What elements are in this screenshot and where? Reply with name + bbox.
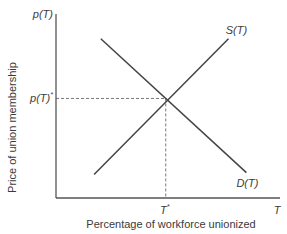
supply-curve: [94, 39, 228, 175]
equilibrium-price-label: p(T)*: [29, 91, 53, 104]
demand-curve: [101, 39, 247, 173]
x-axis-symbol-label: T: [274, 204, 282, 216]
y-axis-title: Price of union membership: [6, 62, 18, 193]
equilibrium-quantity-label: T*: [160, 203, 170, 216]
demand-curve-label: D(T): [236, 177, 258, 189]
x-axis-title: Percentage of workforce unionized: [86, 218, 255, 230]
supply-curve-label: S(T): [226, 24, 248, 36]
curves: S(T)D(T): [94, 24, 259, 189]
axes: [56, 14, 280, 198]
equilibrium-guides: [56, 98, 166, 198]
supply-demand-chart: S(T)D(T) p(T) T p(T)* T* Percentage of w…: [0, 0, 287, 234]
y-axis-symbol-label: p(T): [32, 8, 54, 20]
